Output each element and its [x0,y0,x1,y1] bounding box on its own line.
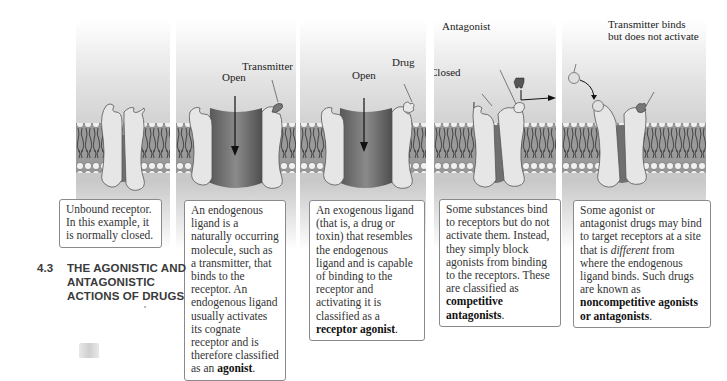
caption-unbound-receptor: Unbound receptor. In this example, it is… [59,199,162,248]
noncompetitive-antagonist-bound-icon [593,101,604,112]
label-transmitter: Transmitter [242,60,293,72]
label-drug: Drug [392,56,415,68]
noncompetitive-antagonist-free-icon [569,73,580,84]
transmitter-molecule-icon [636,103,646,112]
label-antagonist: Antagonist [442,20,490,32]
label-transmitter-binds: Transmitter binds [608,20,686,30]
caption-noncompetitive-antagonist: Some agonist or antagonist drugs may bin… [573,200,711,328]
label-open: Open [222,71,246,83]
section-number: 4.3 [37,261,67,275]
displacement-arrow-icon [548,95,556,101]
section-title: 4.3THE AGONISTIC AND ANTAGONISTIC ACTION… [37,261,186,303]
term-receptor-agonist: receptor agonist [316,323,395,335]
term-agonist: agonist [217,362,252,374]
term-noncompetitive-agonists: noncompetitive agonists or antagonists [580,296,698,321]
caption-competitive-antagonist: Some substances bind to receptors but do… [439,199,561,327]
drug-molecule-icon [403,102,414,113]
caption-endogenous-ligand: An endogenous ligand is a naturally occu… [184,200,286,381]
term-competitive-antagonists: competitive antagonists [446,295,503,320]
label-does-not-activate: but does not activate [608,30,699,42]
label-open: Open [352,69,376,81]
label-closed: Closed [434,66,461,78]
decorative-dot [144,306,146,308]
binding-arrow-icon [591,95,597,100]
page-tab-marker [79,343,99,358]
caption-exogenous-agonist: An exogenous ligand (that is, a drug or … [309,200,425,341]
term-different: different [611,244,650,256]
displaced-agonist-icon [514,78,524,88]
antagonist-molecule-icon [514,102,525,112]
transmitter-molecule-icon [272,103,283,112]
